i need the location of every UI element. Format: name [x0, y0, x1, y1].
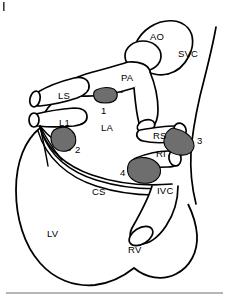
lesion-number-1: 1: [101, 105, 106, 116]
lesion-marker-2-shape: [51, 127, 76, 151]
label-ri: RI: [156, 148, 166, 159]
label-la: LA: [101, 122, 113, 133]
label-svc: SVC: [178, 48, 198, 59]
lesion-marker-4-shape: [128, 158, 161, 184]
label-lv: LV: [47, 228, 59, 239]
label-rv: RV: [128, 244, 142, 255]
label-rs: RS: [153, 130, 167, 141]
label-ao: AO: [150, 31, 164, 42]
label-cs: CS: [92, 186, 106, 197]
crop-mark-top-left: [3, 2, 5, 11]
lesion-number-4: 4: [120, 167, 125, 178]
figure-container: AO SVC PA LS L1 LA RS RI IVC CS LV RV 1 …: [0, 0, 229, 297]
label-ivc: IVC: [157, 185, 173, 196]
l1-vein-cut-end: [29, 113, 39, 127]
label-l1: L1: [59, 117, 70, 128]
label-pa: PA: [121, 72, 134, 83]
lesion-marker-1-shape: [94, 88, 118, 103]
lesion-number-2: 2: [75, 144, 80, 155]
label-ls: LS: [58, 90, 70, 101]
heart-anatomy-illustration: AO SVC PA LS L1 LA RS RI IVC CS LV RV 1 …: [0, 0, 229, 297]
lesion-marker-3-shape: [164, 128, 194, 155]
lesion-number-3: 3: [197, 135, 202, 146]
